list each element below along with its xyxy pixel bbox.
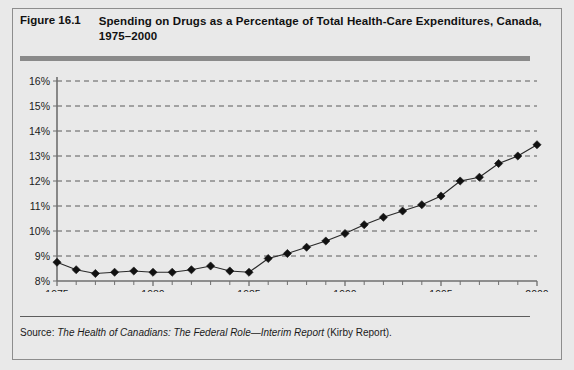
header-rule	[20, 56, 530, 61]
y-axis-tick-label: 11%	[30, 200, 50, 212]
y-axis-tick-label: 10%	[29, 225, 50, 237]
x-axis-tick-label: 1995	[429, 288, 453, 292]
figure-title: Spending on Drugs as a Percentage of Tot…	[99, 14, 556, 44]
figure-card: Figure 16.1 Spending on Drugs as a Perce…	[0, 0, 574, 370]
source-suffix: (Kirby Report).	[327, 327, 392, 338]
data-point-marker	[91, 269, 99, 277]
data-point-marker	[533, 141, 541, 149]
source-title: The Health of Canadians: The Federal Rol…	[57, 327, 324, 338]
figure-header: Figure 16.1 Spending on Drugs as a Perce…	[20, 14, 556, 44]
x-axis-tick-label: 1990	[333, 288, 357, 292]
y-axis-tick-label: 8%	[35, 275, 50, 287]
y-axis-tick-label: 15%	[29, 100, 50, 112]
data-point-marker	[53, 258, 61, 266]
data-point-marker	[226, 267, 234, 275]
data-point-marker	[111, 268, 119, 276]
data-point-marker	[514, 152, 522, 160]
footer-rule	[20, 316, 530, 317]
y-axis-tick-label: 12%	[29, 175, 50, 187]
data-point-marker	[207, 262, 215, 270]
y-axis-tick-label: 14%	[29, 125, 50, 137]
data-point-marker	[418, 201, 426, 209]
data-point-marker	[149, 268, 157, 276]
data-point-marker	[322, 237, 330, 245]
data-point-marker	[72, 266, 80, 274]
y-axis-tick-label: 16%	[29, 75, 50, 87]
source-note: Source: The Health of Canadians: The Fed…	[20, 326, 554, 339]
data-point-marker	[303, 243, 311, 251]
data-point-marker	[399, 207, 407, 215]
source-label: Source:	[20, 327, 54, 338]
y-axis-tick-label: 13%	[29, 150, 50, 162]
data-point-marker	[360, 221, 368, 229]
data-point-marker	[245, 268, 253, 276]
data-point-marker	[168, 268, 176, 276]
chart-plot-area: 8%9%10%11%12%13%14%15%16%197519801985199…	[0, 62, 550, 292]
y-axis-tick-label: 9%	[35, 250, 50, 262]
x-axis-tick-label: 1985	[237, 288, 261, 292]
data-point-marker	[495, 159, 503, 167]
line-chart: 8%9%10%11%12%13%14%15%16%197519801985199…	[0, 62, 550, 292]
data-point-marker	[130, 267, 138, 275]
data-point-marker	[475, 173, 483, 181]
data-point-marker	[379, 213, 387, 221]
data-point-marker	[187, 266, 195, 274]
x-axis-tick-label: 1975	[45, 288, 69, 292]
figure-number: Figure 16.1	[20, 14, 81, 26]
data-line	[57, 145, 537, 274]
x-axis-tick-label: 2000	[525, 288, 549, 292]
x-axis-tick-label: 1980	[141, 288, 165, 292]
